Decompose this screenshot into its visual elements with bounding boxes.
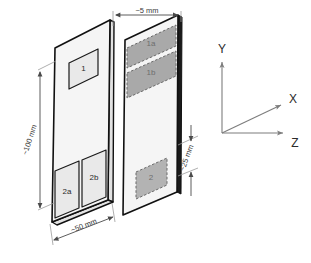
width-extension-right: [112, 203, 115, 222]
height-extension-top: [38, 61, 56, 70]
coordinate-axes: Y X Z: [218, 42, 299, 150]
diagram-root: 1a 1b 2 1 2a 2b: [0, 0, 311, 263]
axis-z-label: Z: [291, 136, 298, 150]
region-1a-label: 1a: [147, 39, 156, 48]
front-plate: 1 2a 2b: [52, 20, 114, 225]
region-2-label: 2: [149, 173, 154, 182]
axis-y-label: Y: [218, 42, 226, 56]
width-dimension-label: ~50 mm: [69, 216, 98, 234]
thickness-dimension-label: ~5 mm: [135, 6, 158, 15]
height-dimension-label: ~100 mm: [20, 123, 38, 156]
region-2b-label: 2b: [90, 173, 99, 182]
dimension-height: ~100 mm: [20, 61, 56, 210]
region-1-label: 1: [81, 64, 86, 73]
axis-x-line: [222, 105, 281, 133]
width-extension-left: [50, 224, 53, 245]
back-plate: 1a 1b 2: [123, 15, 182, 215]
region-2a-label: 2a: [63, 187, 72, 196]
region-1b-label: 1b: [147, 68, 156, 77]
axis-x-label: X: [289, 92, 297, 106]
specimen-plate-diagram: 1a 1b 2 1 2a 2b: [0, 0, 311, 263]
